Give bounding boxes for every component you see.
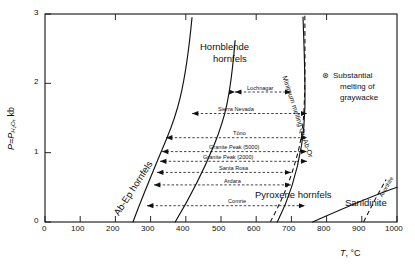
y-axis-sub: H₂O [10, 121, 16, 132]
label-pyroxene-hornfels: Pyroxene hornfels [255, 190, 332, 201]
boundary-abep-hornblende [133, 18, 192, 223]
y-axis-p: P [6, 144, 16, 150]
x-tick-400: 400 [176, 225, 189, 234]
melt-note-line2: melting of [340, 83, 375, 92]
sample-label-sierra-nevada: Sierra Nevada [218, 106, 254, 112]
x-tick-1000: 1000 [385, 225, 403, 234]
x-tick-0: 0 [42, 225, 46, 234]
y-axis-eq: = [6, 139, 16, 144]
sample-label-granite-peak-5000: Granite Peak (5000) [209, 144, 259, 150]
label-hornblende-hornfels-line2: hornfels [213, 54, 247, 65]
y-tick-0: 0 [34, 217, 38, 226]
x-axis-title: T, °C [340, 248, 361, 258]
x-tick-500: 500 [212, 225, 225, 234]
label-hornblende-hornfels-line1: Hornblende [200, 42, 249, 53]
x-tick-600: 600 [247, 225, 260, 234]
phase-diagram-figure: 0 1 2 3 0 100 200 300 400 500 600 700 80… [0, 0, 415, 278]
y-tick-1: 1 [34, 148, 38, 157]
label-sanidinite: Sanidinite [345, 198, 387, 209]
x-tick-900: 900 [352, 225, 365, 234]
sample-label-ardara: Ardara [224, 178, 241, 184]
x-tick-700: 700 [282, 225, 295, 234]
melt-note-line3: graywacke [340, 94, 378, 103]
x-tick-200: 200 [106, 225, 119, 234]
sample-label-comrie: Comrie [228, 198, 246, 204]
y-axis-title: P=PH₂O, kb [6, 107, 17, 150]
x-tick-800: 800 [317, 225, 330, 234]
y-tick-3: 3 [34, 9, 38, 18]
sample-label-tono: Tōno [233, 130, 246, 136]
melt-note-line1: Substantial [333, 72, 373, 81]
x-tick-300: 300 [141, 225, 154, 234]
y-axis-p2: P [6, 133, 16, 139]
sample-label-santa-rosa: Santa Rosa [219, 165, 248, 171]
sample-label-lochnagar: Lochnagar [247, 85, 273, 91]
melt-symbol: ⊛ [322, 72, 329, 81]
x-tick-100: 100 [71, 225, 84, 234]
x-axis-unit: , °C [346, 248, 361, 258]
sample-label-granite-peak-2000: Granite Peak (2000) [203, 154, 253, 160]
y-axis-ticks [45, 14, 51, 222]
boundary-hornblende-upper [175, 41, 235, 223]
y-tick-2: 2 [34, 78, 38, 87]
y-axis-unit: , kb [6, 107, 16, 122]
